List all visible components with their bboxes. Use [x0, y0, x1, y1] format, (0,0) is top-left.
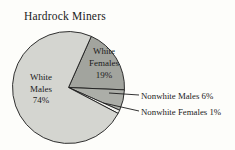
- callout-label-nonwhite-males: Nonwhite Males 6%: [141, 91, 214, 101]
- label-white-males-line2: Males: [30, 84, 52, 94]
- label-white-females-line2: Females: [89, 58, 119, 68]
- label-white-females-value: 19%: [96, 70, 113, 80]
- callout-label-nonwhite-females: Nonwhite Females 1%: [141, 107, 222, 117]
- pie-chart: White Males 74% White Females 19% Nonwhi…: [0, 0, 235, 150]
- label-white-females-line1: White: [93, 46, 115, 56]
- label-white-males-value: 74%: [33, 95, 50, 105]
- pie-figure: Hardrock Miners White Males 74% White Fe…: [0, 0, 235, 150]
- label-white-males-line1: White: [30, 72, 52, 82]
